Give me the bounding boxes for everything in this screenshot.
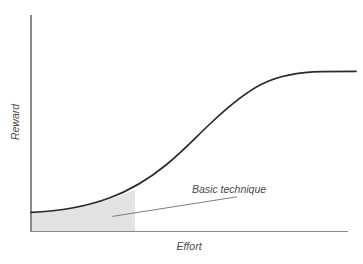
annotation-label: Basic technique [192, 183, 266, 195]
chart-figure: Basic technique Effort Reward [0, 0, 363, 264]
x-axis-label: Effort [176, 240, 202, 252]
effort-reward-chart: Basic technique Effort Reward [0, 0, 363, 264]
y-axis-label: Reward [9, 103, 21, 140]
